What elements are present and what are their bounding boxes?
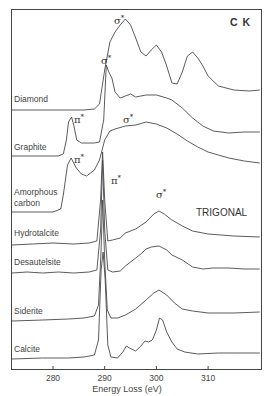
series-label-diamond: Diamond	[14, 94, 48, 104]
tick-label-300: 300	[149, 373, 163, 383]
chart-title: C K	[230, 16, 251, 28]
tick-label-290: 290	[98, 373, 112, 383]
spectrum-amorphous-carbon	[12, 122, 260, 212]
tick-label-310: 310	[201, 373, 215, 383]
spectrum-diamond	[12, 19, 260, 110]
peak-label-carbonate-sigma: σ*	[156, 188, 167, 200]
x-axis: 280 290 300 310 Energy Loss (eV)	[46, 366, 216, 394]
series-label-hydrotalcite: Hydrotalcite	[14, 228, 59, 238]
peak-label-amorphous-pi: π*	[74, 153, 85, 165]
series-label-amorphous: Amorphous	[14, 187, 57, 197]
peak-label-graphite-pi: π*	[74, 113, 85, 125]
series-label-siderite: Siderite	[14, 306, 43, 316]
peak-label-diamond-sigma: σ*	[114, 14, 125, 26]
series-label-graphite: Graphite	[14, 142, 47, 152]
series-label-calcite: Calcite	[14, 344, 40, 354]
trigonal-annotation: TRIGONAL	[196, 207, 248, 218]
peak-label-graphite-sigma-top: σ*	[101, 54, 112, 66]
peak-label-carbonate-pi: π*	[111, 174, 122, 186]
series-label-carbon: carbon	[14, 198, 40, 208]
spectrum-graphite	[12, 65, 260, 156]
tick-label-280: 280	[46, 373, 60, 383]
x-axis-title: Energy Loss (eV)	[92, 384, 162, 394]
peak-label-amorphous-sigma: σ*	[123, 113, 134, 125]
eels-spectra-chart: 280 290 300 310 Energy Loss (eV) C K TRI…	[0, 0, 269, 396]
series-label-desautelsite: Desautelsite	[14, 257, 61, 267]
